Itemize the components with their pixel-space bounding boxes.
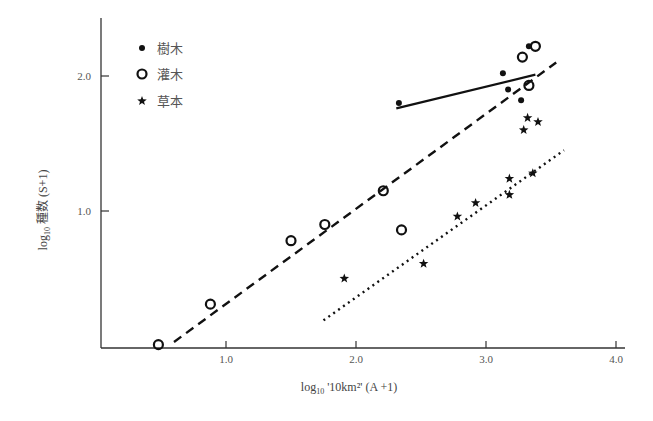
star-marker — [340, 274, 350, 283]
y-ticks: 1.02.0 — [77, 70, 109, 217]
dot-marker — [500, 70, 506, 76]
x-ticks: 1.02.03.04.0 — [219, 341, 623, 365]
legend-circle-icon — [138, 70, 147, 79]
fit-line-dashed — [174, 63, 556, 342]
x-tick-label: 3.0 — [479, 353, 493, 365]
fit-lines — [174, 63, 564, 342]
x-tick-label: 2.0 — [349, 353, 363, 365]
x-axis-title: log10 '10km²' (A +1) — [301, 380, 397, 396]
dot-marker — [396, 100, 402, 106]
legend-label: 草本 — [157, 94, 183, 109]
star-marker — [419, 259, 429, 268]
star-marker — [533, 117, 543, 126]
star-marker — [519, 125, 529, 134]
star-marker — [505, 174, 515, 183]
star-marker — [453, 211, 463, 220]
star-marker — [528, 168, 538, 177]
y-axis-title: log10 種数 (S+1) — [35, 170, 52, 251]
y-tick-label: 1.0 — [77, 205, 91, 217]
circle-marker — [206, 300, 215, 309]
circle-marker — [531, 42, 540, 51]
circle-marker — [287, 236, 296, 245]
dot-marker — [518, 97, 524, 103]
fit-line-dotted — [324, 150, 565, 320]
species-area-chart: 1.02.03.04.0 1.02.0 樹木灌木草本 log10 '10km²'… — [0, 0, 653, 421]
star-marker — [523, 113, 533, 122]
x-tick-label: 1.0 — [219, 353, 233, 365]
legend: 樹木灌木草本 — [137, 41, 183, 109]
circle-marker — [518, 53, 527, 62]
legend-label: 樹木 — [157, 41, 183, 56]
legend-star-icon — [137, 96, 147, 105]
circle-marker — [397, 225, 406, 234]
star-marker — [471, 198, 481, 207]
legend-dot-icon — [139, 45, 145, 51]
legend-label: 灌木 — [157, 67, 183, 82]
circle-marker — [320, 220, 329, 229]
y-tick-label: 2.0 — [77, 70, 91, 82]
dot-marker — [505, 87, 511, 93]
x-tick-label: 4.0 — [609, 353, 623, 365]
